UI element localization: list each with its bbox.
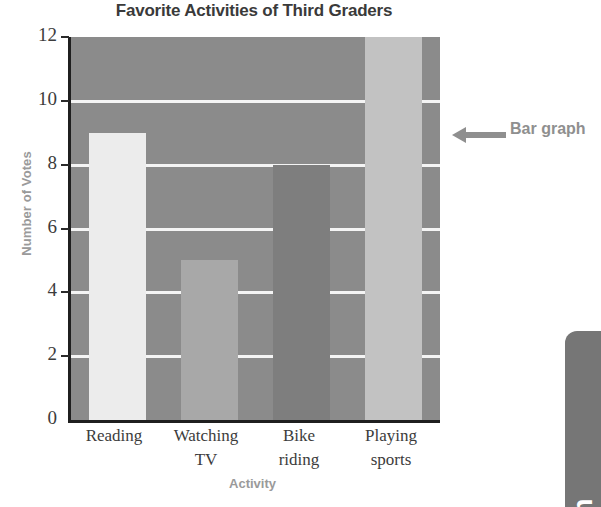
x-tick-label: Reading: [68, 424, 160, 448]
callout-label: Bar graph: [510, 120, 586, 138]
bar: [273, 165, 330, 420]
y-tick-label: 4: [11, 279, 57, 301]
bar: [89, 133, 146, 420]
y-tick-label: 0: [11, 407, 57, 429]
y-axis-labels: 024681012: [0, 0, 57, 507]
y-tick-mark: [61, 355, 69, 357]
y-tick-mark: [61, 164, 69, 166]
y-tick-label: 6: [11, 216, 57, 238]
left-arrow-icon: [452, 126, 506, 148]
x-axis-title: Activity: [68, 476, 437, 491]
bar: [365, 37, 422, 420]
y-tick-mark: [61, 291, 69, 293]
side-tab-label: Math: [568, 468, 599, 507]
y-tick-label: 12: [11, 24, 57, 46]
y-tick-mark: [61, 100, 69, 102]
y-tick-label: 10: [11, 88, 57, 110]
bar-chart-figure: Favorite Activities of Third Graders Num…: [0, 0, 450, 507]
plot-inner: [71, 37, 440, 420]
x-tick-label: WatchingTV: [160, 424, 252, 472]
x-tick-label: Playingsports: [345, 424, 437, 472]
chart-title: Favorite Activities of Third Graders: [68, 1, 440, 21]
y-tick-mark: [61, 228, 69, 230]
x-tick-label: Bikeriding: [253, 424, 345, 472]
y-tick-mark: [61, 36, 69, 38]
y-tick-label: 2: [11, 343, 57, 365]
side-tab-panel[interactable]: Math: [565, 331, 601, 507]
y-tick-label: 8: [11, 152, 57, 174]
plot-area: [68, 37, 440, 423]
bar: [181, 260, 238, 420]
